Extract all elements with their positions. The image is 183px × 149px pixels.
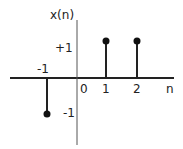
x-tick-minus-1: -1 <box>37 63 49 75</box>
y-tick-minus-1: -1 <box>63 107 75 119</box>
y-axis-title: x(n) <box>50 9 74 21</box>
stem-dot-n-minus-1 <box>44 111 51 118</box>
x-tick-1: 1 <box>102 83 110 95</box>
x-tick-2: 2 <box>133 83 141 95</box>
stem-dot-n-1 <box>103 38 110 45</box>
stem-plot <box>0 0 183 149</box>
stem-dot-n-2 <box>134 38 141 45</box>
y-tick-plus-1: +1 <box>55 42 73 54</box>
x-axis-title: n <box>166 83 174 95</box>
x-tick-0: 0 <box>80 83 88 95</box>
